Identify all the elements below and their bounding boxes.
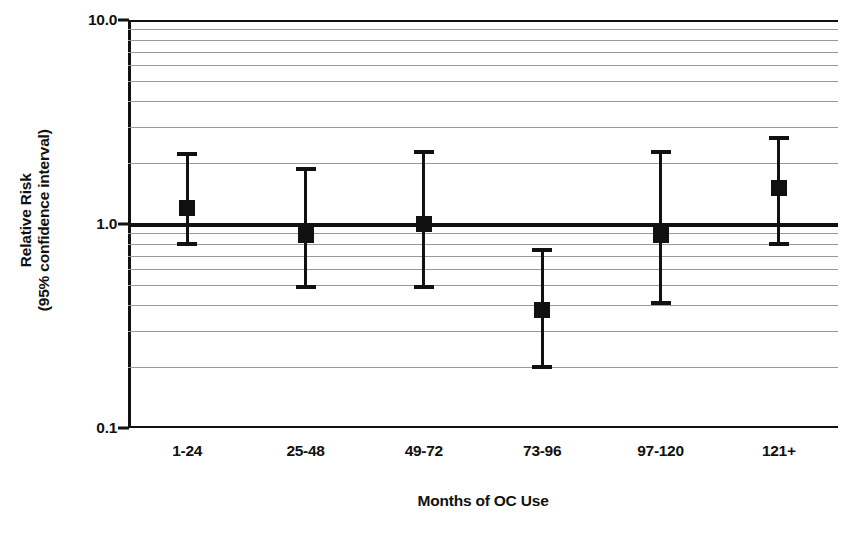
- data-point-marker: [534, 302, 550, 318]
- error-bar-cap-upper: [414, 150, 434, 154]
- error-bar-cap-upper: [769, 136, 789, 140]
- axis-frame-top: [128, 20, 838, 22]
- gridline: [128, 163, 838, 164]
- gridline: [128, 127, 838, 128]
- error-bar-cap-upper: [532, 248, 552, 252]
- x-axis-tick-labels: 1-2425-4849-7273-9697-120121+: [128, 434, 838, 468]
- x-axis-tick-label: 97-120: [637, 442, 683, 460]
- x-axis-line: [128, 426, 838, 428]
- error-bar-cap-lower: [177, 242, 197, 246]
- error-bar-cap-upper: [177, 152, 197, 156]
- x-axis-tick-label: 121+: [762, 442, 796, 460]
- error-bar-cap-upper: [296, 167, 316, 171]
- error-bar-cap-lower: [651, 301, 671, 305]
- data-point-marker: [298, 227, 314, 243]
- y-axis-title-line1: Relative Risk: [17, 173, 34, 267]
- error-bar-cap-lower: [769, 242, 789, 246]
- reference-line-1: [128, 223, 838, 227]
- plot-area: [128, 20, 838, 428]
- gridline: [128, 256, 838, 257]
- x-axis-tick-label: 49-72: [405, 442, 443, 460]
- gridline: [128, 29, 838, 30]
- error-bar-cap-lower: [414, 285, 434, 289]
- y-axis-tick-label: 10.0: [57, 11, 117, 29]
- gridline: [128, 269, 838, 270]
- gridline: [128, 367, 838, 368]
- data-point-marker: [771, 180, 787, 196]
- x-axis-tick-label: 73-96: [523, 442, 561, 460]
- gridline: [128, 305, 838, 306]
- y-axis-tick-label: 1.0: [57, 215, 117, 233]
- data-point-marker: [653, 227, 669, 243]
- y-axis-tick-label: 0.1: [57, 419, 117, 437]
- error-bar-cap-upper: [651, 150, 671, 154]
- error-bar-cap-lower: [296, 285, 316, 289]
- gridline: [128, 233, 838, 234]
- relative-risk-error-bar-chart: Relative Risk (95% confidence interval) …: [0, 0, 856, 538]
- gridline: [128, 65, 838, 66]
- x-axis-tick-label: 1-24: [172, 442, 202, 460]
- gridline: [128, 244, 838, 245]
- gridline: [128, 331, 838, 332]
- error-bar-cap-lower: [532, 365, 552, 369]
- x-axis-title: Months of OC Use: [128, 492, 838, 510]
- data-point-marker: [179, 200, 195, 216]
- y-axis-title-line2: (95% confidence interval): [35, 129, 53, 311]
- gridline: [128, 285, 838, 286]
- gridline: [128, 52, 838, 53]
- gridline: [128, 40, 838, 41]
- x-axis-tick-label: 25-48: [286, 442, 324, 460]
- y-axis-tick-labels: 10.01.00.1: [55, 0, 117, 440]
- data-point-marker: [416, 216, 432, 232]
- gridline: [128, 81, 838, 82]
- gridline: [128, 101, 838, 102]
